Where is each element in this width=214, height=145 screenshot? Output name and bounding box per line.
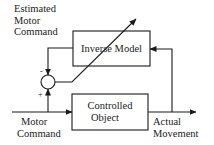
label-line: Motor [21,116,61,128]
plus-sign: + [38,91,43,99]
inverse-model-label: Inverse Model [73,43,150,55]
label-line: Motor [14,15,58,27]
label-line: Estimated [14,3,58,15]
estimated-command-arrow [48,48,73,75]
plus-text: + [38,90,43,99]
label-line: Controlled [72,100,148,112]
label-line: Command [17,128,61,140]
actual-movement-label: Actual Movement [153,116,199,139]
controlled-object-label: Controlled Object [72,100,148,123]
inverse-model-text: Inverse Model [81,43,142,54]
minus-text: - [40,67,43,76]
label-line: Command [14,26,58,38]
motor-command-label: Motor Command [21,116,61,139]
label-line: Actual [153,116,199,128]
estimated-motor-command-label: Estimated Motor Command [14,3,58,38]
label-line: Object [62,112,148,124]
summing-junction [41,75,55,89]
feedback-arrow [150,49,172,112]
minus-sign: - [40,68,43,76]
label-line: Movement [153,128,199,140]
